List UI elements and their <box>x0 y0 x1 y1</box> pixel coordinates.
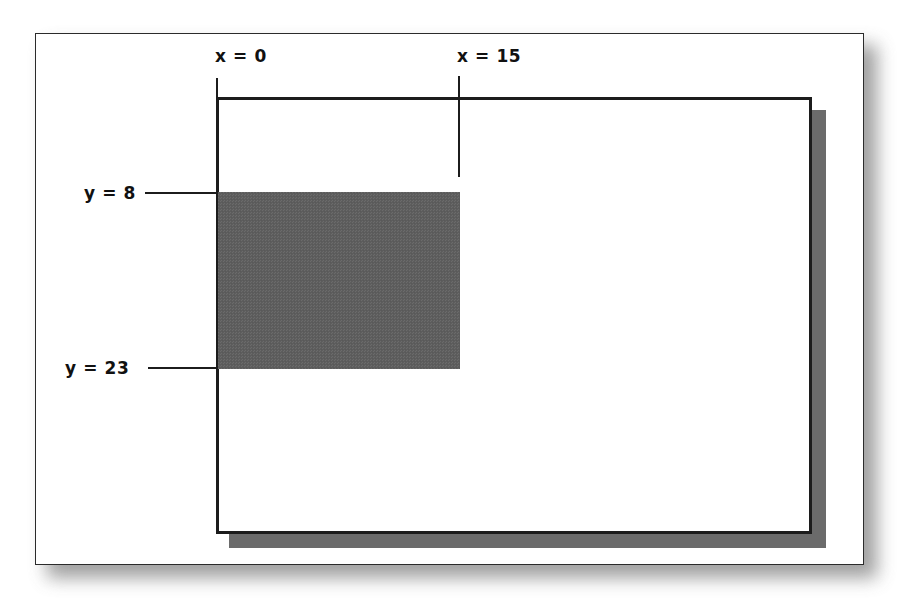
label-y-start: y = 8 <box>84 185 136 202</box>
label-x-start: x = 0 <box>215 48 267 65</box>
tick-line-x-start <box>216 78 218 99</box>
label-y-end: y = 23 <box>65 360 129 377</box>
diagram-canvas: x = 0 x = 15 y = 8 y = 23 <box>0 0 908 603</box>
tick-line-x-end <box>458 76 460 177</box>
label-x-end: x = 15 <box>457 48 521 65</box>
leader-line-y-end <box>148 367 217 369</box>
leader-line-y-start <box>145 192 217 194</box>
shaded-coordinate-region <box>218 192 460 369</box>
